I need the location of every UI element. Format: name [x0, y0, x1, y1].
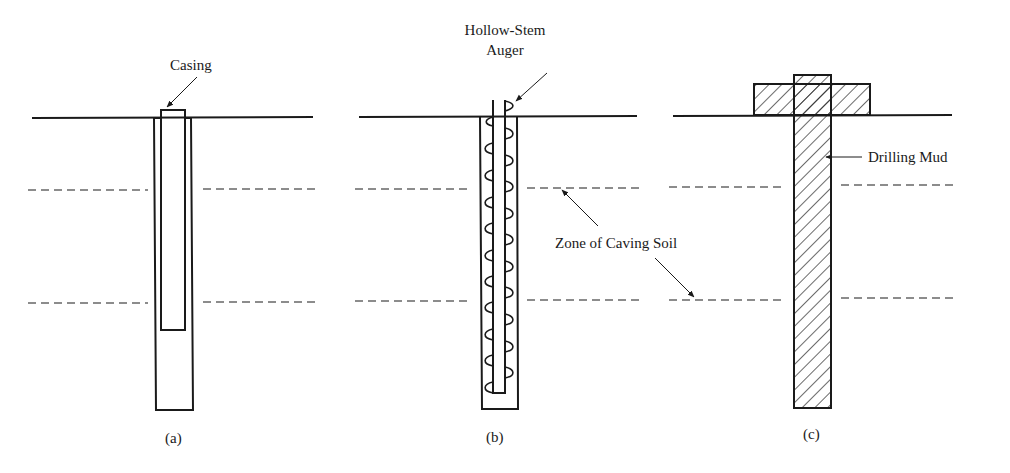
ground-surface-line	[32, 117, 313, 118]
auger-flights-right	[505, 101, 513, 378]
panel-b-hollow-stem-auger: Hollow-Stem Auger (b)	[355, 22, 642, 446]
casing-pipe	[161, 110, 185, 330]
ground-surface-line	[359, 116, 637, 117]
hollow-stem-label-line1: Hollow-Stem	[465, 22, 546, 38]
panel-c-drilling-mud: Drilling Mud (c)	[669, 75, 958, 443]
hollow-stem	[493, 100, 505, 393]
panel-a-caption: (a)	[165, 430, 182, 447]
zone-of-caving-soil-label: Zone of Caving Soil	[555, 235, 677, 251]
borehole-outline	[154, 118, 193, 410]
hollow-stem-label-line2: Auger	[486, 42, 524, 58]
casing-pointer-arrow	[167, 77, 197, 107]
panel-b-caption: (b)	[486, 429, 504, 446]
caving-zone-lower-pointer	[655, 258, 694, 297]
drilling-methods-diagram: Casing (a)	[0, 0, 1010, 473]
panel-a-casing: Casing (a)	[28, 57, 320, 447]
caving-zone-upper-pointer	[562, 190, 598, 226]
auger-flights-left	[485, 117, 493, 393]
panel-c-caption: (c)	[803, 426, 820, 443]
auger-pointer-arrow	[516, 73, 547, 101]
casing-label: Casing	[170, 57, 212, 73]
zone-of-caving-soil-annotation: Zone of Caving Soil	[555, 190, 694, 297]
drilling-mud-label: Drilling Mud	[868, 149, 948, 165]
mud-filled-borehole	[794, 75, 831, 408]
